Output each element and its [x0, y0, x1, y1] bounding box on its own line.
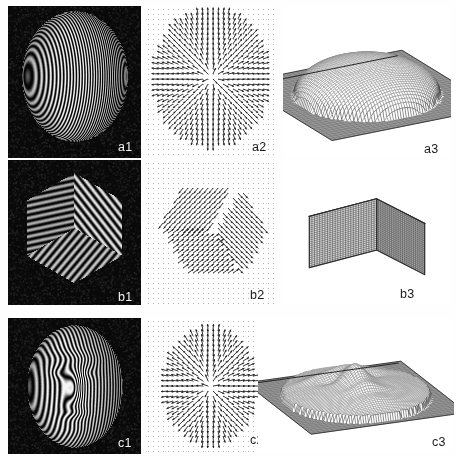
panel-a3-canvas — [283, 6, 451, 158]
panel-c1 — [8, 318, 141, 454]
panel-b3 — [283, 160, 451, 305]
panel-c3 — [258, 318, 454, 454]
panel-label-c3: c3 — [432, 436, 446, 449]
panel-b1-canvas — [8, 160, 141, 305]
panel-label-a2: a2 — [252, 141, 267, 154]
panel-b3-canvas — [283, 160, 451, 305]
panel-label-a3: a3 — [424, 143, 439, 156]
panel-a3 — [283, 6, 451, 158]
panel-label-b1: b1 — [118, 291, 133, 304]
figure-root: a1a2a3b1b2b3c1c2c3 — [0, 0, 456, 456]
panel-c1-canvas — [8, 318, 141, 454]
panel-a2 — [145, 6, 278, 158]
panel-b2-canvas — [145, 160, 278, 305]
panel-c3-canvas — [258, 318, 454, 454]
panel-a1-canvas — [8, 6, 141, 158]
panel-label-a1: a1 — [118, 141, 133, 154]
panel-label-c1: c1 — [118, 437, 132, 450]
panel-a1 — [8, 6, 141, 158]
panel-b2 — [145, 160, 278, 305]
panel-b1 — [8, 160, 141, 305]
panel-label-b3: b3 — [400, 288, 415, 301]
panel-label-b2: b2 — [250, 289, 265, 302]
panel-a2-canvas — [145, 6, 278, 158]
